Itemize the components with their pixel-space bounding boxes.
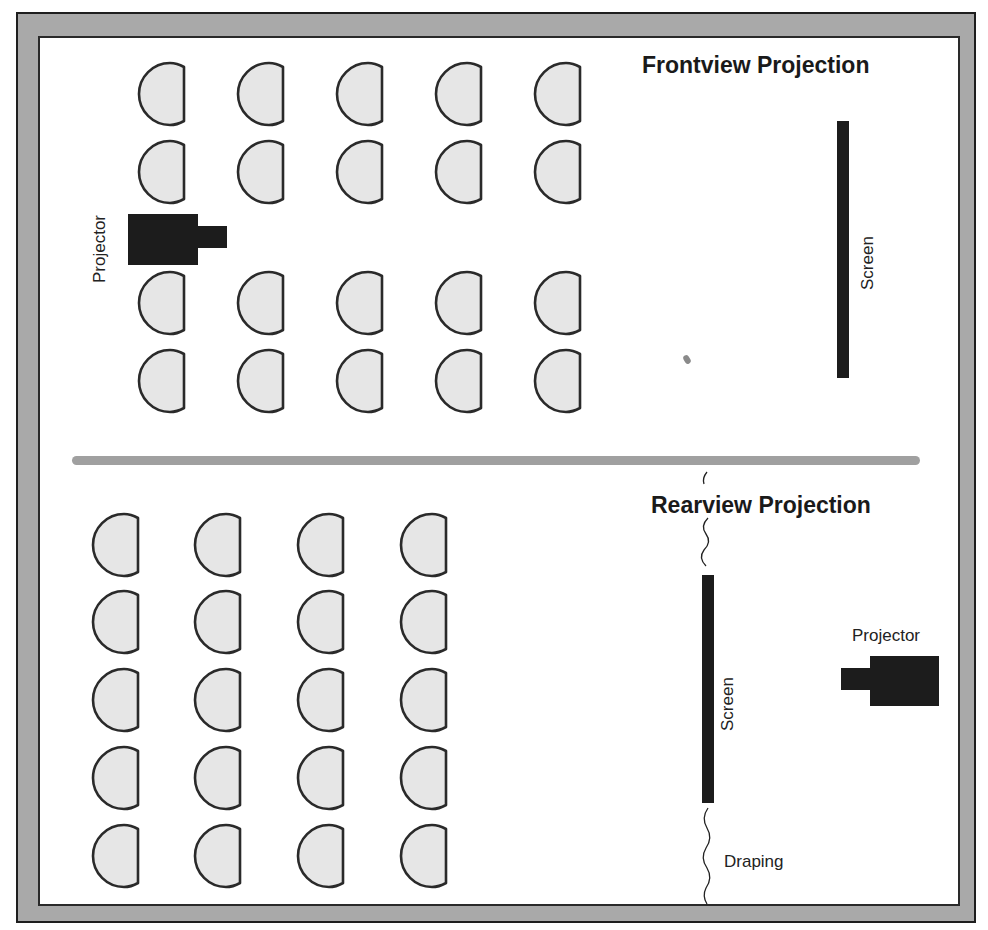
seat-icon (335, 61, 385, 127)
seat-icon (296, 823, 346, 889)
draping-top-icon (694, 470, 718, 580)
seat-icon (399, 823, 449, 889)
frontview-title: Frontview Projection (642, 52, 869, 79)
seat-icon (193, 589, 243, 655)
seat-icon (193, 512, 243, 578)
rearview-screen (702, 575, 714, 803)
projector-lens (841, 668, 872, 690)
seat-icon (335, 139, 385, 205)
seat-icon (434, 270, 484, 336)
seat-icon (193, 745, 243, 811)
projector-lens (196, 226, 227, 248)
seat-icon (236, 270, 286, 336)
projection-layout-diagram: Frontview Projection Projector Screen Re… (0, 0, 988, 930)
rearview-screen-label: Screen (718, 677, 738, 731)
seat-icon (91, 589, 141, 655)
draping-bottom-icon (698, 806, 718, 906)
seat-icon (91, 667, 141, 733)
seat-icon (533, 61, 583, 127)
seat-icon (193, 823, 243, 889)
seat-icon (236, 61, 286, 127)
seat-icon (236, 348, 286, 414)
seat-icon (91, 512, 141, 578)
frontview-projector-label: Projector (90, 215, 110, 283)
rearview-projector-label: Projector (852, 626, 920, 646)
seat-icon (335, 348, 385, 414)
seat-icon (137, 139, 187, 205)
seat-icon (193, 667, 243, 733)
seat-icon (399, 745, 449, 811)
seat-icon (91, 745, 141, 811)
section-divider (72, 456, 920, 465)
seat-icon (399, 589, 449, 655)
seat-icon (236, 139, 286, 205)
seat-icon (296, 589, 346, 655)
seat-icon (533, 139, 583, 205)
seat-icon (434, 139, 484, 205)
seat-icon (434, 348, 484, 414)
seat-icon (399, 512, 449, 578)
seat-icon (533, 270, 583, 336)
draping-label: Draping (724, 852, 784, 872)
frontview-screen-label: Screen (858, 236, 878, 290)
seat-icon (137, 270, 187, 336)
seat-icon (296, 512, 346, 578)
rearview-title: Rearview Projection (651, 492, 871, 519)
projector-body (128, 214, 198, 265)
projector-body (870, 656, 939, 706)
seat-icon (533, 348, 583, 414)
seat-icon (137, 348, 187, 414)
seat-icon (296, 667, 346, 733)
seat-icon (335, 270, 385, 336)
seat-icon (399, 667, 449, 733)
seat-icon (296, 745, 346, 811)
seat-icon (137, 61, 187, 127)
seat-icon (91, 823, 141, 889)
frontview-screen (837, 121, 849, 378)
seat-icon (434, 61, 484, 127)
